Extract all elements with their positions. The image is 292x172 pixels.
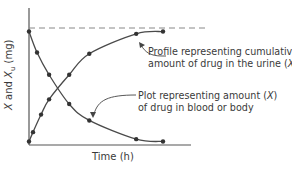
data-point	[161, 139, 165, 143]
annotation-urine: Profile representing cumulative amount o…	[148, 46, 292, 74]
body-annotation-arrow	[94, 95, 136, 114]
data-point	[87, 118, 91, 122]
annotation-body: Plot representing amount (X) of drug in …	[138, 90, 277, 113]
y-axis-label: X and Xu (mg)	[3, 40, 17, 110]
data-point	[161, 29, 165, 33]
data-point	[134, 32, 138, 36]
data-point	[35, 50, 39, 54]
chart-canvas	[0, 0, 292, 172]
data-point	[87, 52, 91, 56]
data-point	[47, 97, 51, 101]
data-point	[39, 112, 43, 116]
data-point	[67, 102, 71, 106]
data-point	[47, 73, 51, 77]
data-point	[27, 139, 31, 143]
data-point	[31, 130, 35, 134]
data-point	[67, 73, 71, 77]
arrowhead-icon	[90, 112, 96, 118]
x-axis-label: Time (h)	[92, 151, 134, 163]
series-group	[27, 29, 165, 143]
data-point	[27, 29, 31, 33]
data-point	[134, 137, 138, 141]
